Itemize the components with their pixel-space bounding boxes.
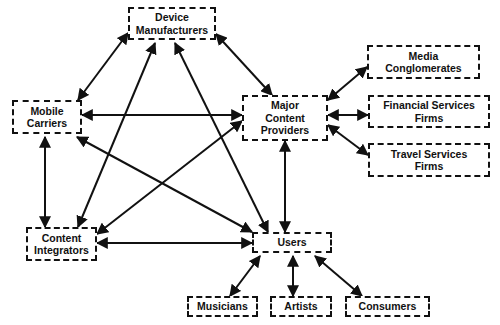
edge-mobile-users — [77, 137, 252, 232]
node-financial-services-firms: Financial Services Firms — [368, 95, 490, 128]
node-musicians: Musicians — [187, 296, 258, 317]
node-content-integrators: Content Integrators — [26, 227, 97, 261]
node-major-content-providers: Major Content Providers — [242, 95, 328, 141]
node-device-manufacturers: Device Manufacturers — [128, 7, 216, 40]
node-mobile-carriers: Mobile Carriers — [12, 100, 82, 134]
ecosystem-diagram: Device Manufacturers Mobile Carriers Maj… — [0, 0, 500, 325]
edge-major-travel — [328, 125, 368, 155]
edge-device-mobile — [78, 33, 128, 100]
node-artists: Artists — [270, 296, 332, 317]
edge-major-integ — [97, 121, 242, 234]
edge-device-integ — [78, 43, 155, 227]
node-travel-services-firms: Travel Services Firms — [368, 143, 490, 177]
node-users: Users — [252, 232, 332, 253]
edge-users-consumers — [315, 256, 362, 296]
edge-major-media — [328, 67, 367, 100]
edge-users-musicians — [230, 256, 260, 296]
node-consumers: Consumers — [345, 296, 430, 317]
edge-device-major — [216, 34, 272, 95]
node-media-conglomerates: Media Conglomerates — [367, 45, 480, 79]
